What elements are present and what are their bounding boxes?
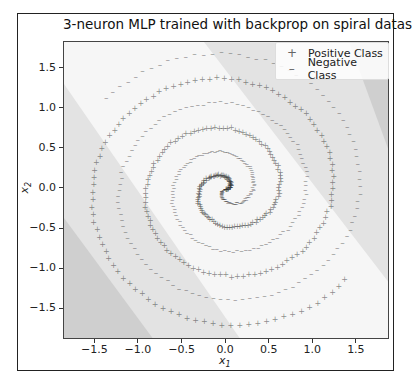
svg-text:–: – <box>337 108 342 118</box>
svg-text:–: – <box>256 106 261 116</box>
svg-text:+: + <box>176 310 183 319</box>
svg-text:–: – <box>240 294 245 304</box>
svg-text:+: + <box>221 74 228 83</box>
svg-text:–: – <box>201 50 206 60</box>
legend: + Positive Class – Negative Class <box>275 42 389 80</box>
chart-title: 3-neuron MLP trained with backprop on sp… <box>63 16 393 32</box>
svg-text:–: – <box>196 100 201 110</box>
svg-text:+: + <box>280 312 287 321</box>
svg-text:–: – <box>162 111 167 121</box>
svg-text:–: – <box>154 268 159 278</box>
scatter-canvas: ++++++++++++++++++++++++++++++++++++++++… <box>64 42 389 339</box>
svg-text:–: – <box>254 54 259 64</box>
svg-text:–: – <box>315 265 320 275</box>
svg-text:+: + <box>192 76 199 85</box>
svg-text:+: + <box>341 275 348 284</box>
svg-text:–: – <box>167 109 172 119</box>
svg-text:–: – <box>326 255 331 265</box>
svg-text:–: – <box>277 287 282 297</box>
svg-text:+: + <box>152 300 159 309</box>
y-tick-label: −0.5 <box>22 221 56 234</box>
svg-text:+: + <box>218 321 225 330</box>
svg-text:–: – <box>331 102 336 112</box>
svg-text:–: – <box>274 118 279 128</box>
svg-text:+: + <box>163 84 170 93</box>
svg-text:–: – <box>262 291 267 301</box>
svg-text:+: + <box>210 319 217 328</box>
svg-text:+: + <box>214 73 221 82</box>
svg-text:+: + <box>150 92 157 101</box>
y-tick-mark <box>59 147 63 148</box>
svg-text:+: + <box>256 81 263 90</box>
svg-text:–: – <box>173 106 178 116</box>
svg-text:–: – <box>110 87 115 97</box>
svg-text:+: + <box>242 78 249 87</box>
svg-text:–: – <box>204 292 209 302</box>
svg-text:–: – <box>149 123 154 133</box>
svg-text:–: – <box>266 111 271 121</box>
svg-text:+: + <box>314 299 321 308</box>
svg-text:–: – <box>230 97 235 107</box>
x-tick-label: 0.5 <box>255 343 283 356</box>
svg-text:–: – <box>213 97 218 107</box>
svg-text:–: – <box>207 97 212 107</box>
svg-text:–: – <box>211 293 216 303</box>
svg-text:–: – <box>248 293 253 303</box>
svg-text:+: + <box>298 105 305 114</box>
svg-text:+: + <box>168 307 175 316</box>
svg-text:+: + <box>263 317 270 326</box>
svg-text:–: – <box>335 243 340 253</box>
svg-text:+: + <box>263 83 270 92</box>
x-tick-label: −1.5 <box>80 343 108 356</box>
svg-text:–: – <box>171 280 176 290</box>
svg-text:+: + <box>228 75 235 84</box>
plot-area: ++++++++++++++++++++++++++++++++++++++++… <box>63 41 389 339</box>
svg-text:+: + <box>132 285 139 294</box>
svg-text:+: + <box>272 315 279 324</box>
svg-text:–: – <box>321 90 326 100</box>
svg-text:+: + <box>298 307 305 316</box>
svg-text:–: – <box>184 52 189 62</box>
y-tick-mark <box>59 308 63 309</box>
svg-text:–: – <box>279 120 284 130</box>
y-tick-mark <box>59 268 63 269</box>
svg-text:–: – <box>149 63 154 73</box>
svg-text:+: + <box>269 86 276 95</box>
svg-text:–: – <box>237 49 242 59</box>
svg-text:+: + <box>199 75 206 84</box>
svg-text:+: + <box>275 90 282 99</box>
y-tick-mark <box>59 107 63 108</box>
y-tick-mark <box>59 228 63 229</box>
svg-text:–: – <box>201 100 206 110</box>
svg-text:+: + <box>184 78 191 87</box>
svg-text:+: + <box>249 80 256 89</box>
svg-text:–: – <box>351 136 356 146</box>
legend-entry-negative: – Negative Class <box>282 61 388 77</box>
svg-text:–: – <box>251 105 256 115</box>
y-tick-label: 0.5 <box>22 141 56 154</box>
x-tick-label: 1.5 <box>342 343 370 356</box>
svg-text:–: – <box>174 53 179 63</box>
svg-text:–: – <box>270 115 275 125</box>
svg-text:–: – <box>263 54 268 64</box>
svg-text:–: – <box>197 290 202 300</box>
svg-text:–: – <box>159 272 164 282</box>
svg-text:+: + <box>254 319 261 328</box>
x-tick-label: 1.0 <box>298 343 326 356</box>
svg-text:+: + <box>306 303 313 312</box>
svg-text:–: – <box>165 55 170 65</box>
svg-text:–: – <box>226 294 231 304</box>
svg-text:–: – <box>341 115 346 125</box>
svg-text:–: – <box>270 290 275 300</box>
svg-text:–: – <box>177 284 182 294</box>
y-axis-label: x2 <box>18 182 33 194</box>
x-axis-label: x1 <box>219 354 231 369</box>
svg-text:–: – <box>297 277 302 287</box>
y-tick-label: 1.0 <box>22 101 56 114</box>
svg-text:–: – <box>126 77 131 87</box>
svg-text:–: – <box>219 47 224 57</box>
svg-text:–: – <box>218 96 223 106</box>
y-tick-mark <box>59 187 63 188</box>
svg-text:+: + <box>137 99 144 108</box>
svg-text:–: – <box>303 273 308 283</box>
